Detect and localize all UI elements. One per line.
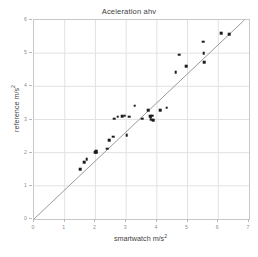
x-tick-mark	[248, 219, 249, 222]
x-tick-mark	[217, 219, 218, 222]
y-tick-mark	[29, 185, 32, 186]
y-tick-mark	[29, 85, 32, 86]
y-tick-mark	[29, 218, 32, 219]
data-point	[152, 119, 155, 122]
data-point	[185, 65, 188, 68]
data-point	[128, 116, 131, 119]
data-point	[175, 71, 178, 74]
data-point	[165, 107, 168, 110]
y-tick-mark	[29, 152, 32, 153]
x-axis-label-text: smartwatch m/s	[114, 234, 164, 243]
data-point	[228, 33, 231, 36]
data-point	[202, 40, 205, 43]
data-point	[125, 134, 128, 137]
y-tick-label: 1	[17, 182, 27, 188]
data-point	[202, 52, 205, 55]
data-point	[83, 161, 86, 164]
x-tick-label: 4	[154, 224, 157, 230]
x-tick-mark	[187, 219, 188, 222]
data-point	[141, 118, 144, 121]
y-tick-label: 6	[17, 16, 27, 22]
y-axis-label: reference m/s2	[12, 44, 21, 174]
y-tick-mark	[29, 119, 32, 120]
data-point	[108, 139, 111, 142]
data-point	[151, 114, 154, 117]
data-point	[123, 114, 126, 117]
data-point	[133, 104, 136, 107]
data-point-series	[34, 20, 249, 219]
y-axis-label-exponent: 2	[10, 85, 16, 88]
x-tick-label: 5	[185, 224, 188, 230]
x-tick-mark	[156, 219, 157, 222]
data-point	[159, 109, 162, 112]
chart-title: Aceleration ahv	[0, 7, 258, 16]
data-point	[86, 158, 89, 161]
y-tick-mark	[29, 52, 32, 53]
data-point	[178, 54, 181, 57]
data-point	[203, 61, 206, 64]
x-tick-label: 2	[93, 224, 96, 230]
data-point	[112, 135, 115, 138]
data-point	[106, 147, 109, 150]
plot-area	[33, 19, 250, 220]
data-point	[147, 109, 150, 112]
x-axis-label: smartwatch m/s2	[33, 234, 248, 243]
x-tick-mark	[94, 219, 95, 222]
x-tick-label: 7	[247, 224, 250, 230]
x-tick-label: 1	[62, 224, 65, 230]
data-point	[95, 151, 98, 154]
scatter-chart-figure: Aceleration ahv 01234567 0123456 smartwa…	[0, 0, 258, 257]
x-tick-mark	[33, 219, 34, 222]
y-axis-label-text: reference m/s	[12, 88, 21, 132]
x-tick-label: 3	[124, 224, 127, 230]
x-tick-mark	[125, 219, 126, 222]
data-point	[79, 168, 82, 171]
x-tick-label: 6	[216, 224, 219, 230]
y-tick-label: 0	[17, 215, 27, 221]
data-point	[116, 116, 119, 119]
y-tick-mark	[29, 19, 32, 20]
x-tick-label: 0	[32, 224, 35, 230]
x-tick-mark	[64, 219, 65, 222]
x-axis-label-exponent: 2	[164, 233, 167, 239]
data-point	[220, 32, 223, 35]
